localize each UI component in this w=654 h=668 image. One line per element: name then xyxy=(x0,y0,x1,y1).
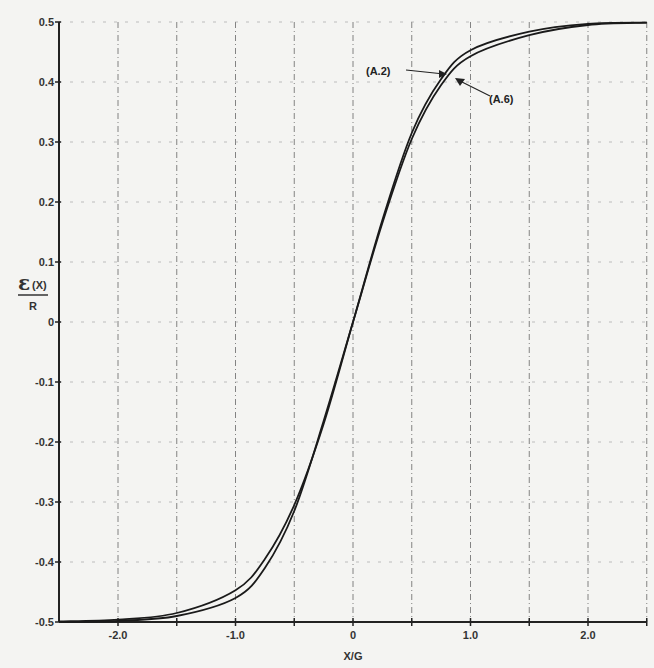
y-tick-label: 0 xyxy=(48,316,54,328)
annotation-a2-arrow xyxy=(406,70,444,74)
annotation-a2-label: (A.2) xyxy=(366,65,391,77)
y-tick-label: -0.1 xyxy=(35,376,54,388)
y-tick-label: 0.5 xyxy=(39,16,54,28)
x-tick-label: 2.0 xyxy=(580,629,595,641)
y-tick-label: 0.2 xyxy=(39,196,54,208)
y-tick-label: -0.5 xyxy=(35,616,54,628)
annotation-a6-arrow xyxy=(458,80,490,96)
axes xyxy=(55,22,647,626)
y-axis-epsilon: ε xyxy=(18,271,30,295)
x-tick-label: -2.0 xyxy=(109,629,128,641)
annotation-a6-label: (A.6) xyxy=(489,93,514,105)
annotation-a6: (A.6) xyxy=(455,78,514,105)
x-tick-label: -1.0 xyxy=(226,629,245,641)
sigmoid-chart: 0.50.40.30.20.10-0.1-0.2-0.3-0.4-0.5-2.0… xyxy=(0,0,654,668)
y-tick-label: 0.3 xyxy=(39,136,54,148)
x-tick-label: 0 xyxy=(350,629,356,641)
y-tick-label: -0.4 xyxy=(35,556,55,568)
tick-labels: 0.50.40.30.20.10-0.1-0.2-0.3-0.4-0.5-2.0… xyxy=(35,16,596,641)
y-axis-denominator: R xyxy=(29,300,37,312)
y-axis-title: ε (X) R xyxy=(18,271,48,312)
y-tick-label: 0.4 xyxy=(39,76,55,88)
x-axis-title: X/G xyxy=(344,650,363,662)
x-tick-label: 1.0 xyxy=(463,629,478,641)
y-axis-epsilon-sub: (X) xyxy=(32,279,47,291)
y-tick-label: -0.3 xyxy=(35,496,54,508)
y-tick-label: 0.1 xyxy=(39,256,54,268)
annotation-a2: (A.2) xyxy=(366,65,447,78)
y-tick-label: -0.2 xyxy=(35,436,54,448)
